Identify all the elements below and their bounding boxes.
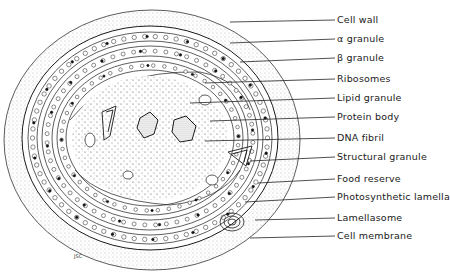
label-cell-wall: Cell wall	[337, 14, 378, 25]
label-lamellasome: Lamellasome	[337, 212, 402, 223]
label-photosynthetic-lamella: Photosynthetic lamella	[337, 191, 450, 202]
label--granule: β granule	[337, 52, 384, 63]
label-structural-granule: Structural granule	[337, 151, 427, 162]
label-ribosomes: Ribosomes	[337, 73, 391, 84]
label-cell-membrane: Cell membrane	[337, 230, 412, 241]
label-food-reserve: Food reserve	[337, 173, 401, 184]
label-lipid-granule: Lipid granule	[337, 92, 402, 103]
label-dna-fibril: DNA fibril	[337, 132, 384, 143]
artist-signature: JSC	[74, 253, 82, 259]
label-protein-body: Protein body	[337, 111, 399, 122]
cytoplasm	[72, 76, 228, 200]
label--granule: α granule	[337, 33, 384, 44]
